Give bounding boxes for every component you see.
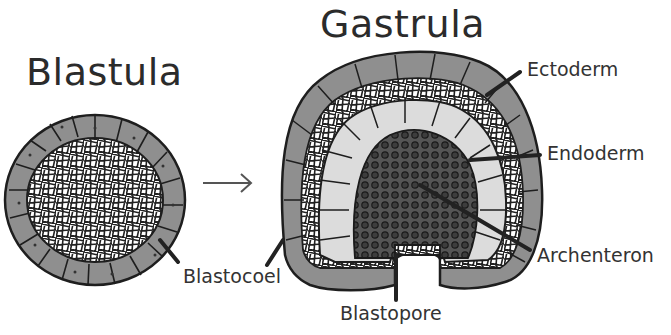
label-endoderm: Endoderm <box>547 142 644 164</box>
label-ectoderm: Ectoderm <box>527 58 618 80</box>
embryo-development-diagram: Blastula Gastrula <box>0 0 671 335</box>
gastrula-embryo <box>282 52 542 290</box>
diagram-drawing <box>0 0 671 335</box>
label-blastopore: Blastopore <box>340 302 442 324</box>
blastula-embryo <box>5 115 185 285</box>
development-arrow <box>203 174 251 192</box>
label-archenteron: Archenteron <box>537 244 654 266</box>
blastocoel-leader-line-right <box>267 240 283 265</box>
label-blastocoel: Blastocoel <box>183 265 281 287</box>
